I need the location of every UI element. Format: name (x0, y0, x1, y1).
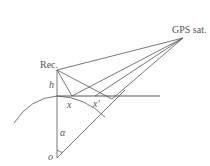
earth-surface-arc (14, 96, 105, 123)
satellite-label: GPS sat. (172, 24, 206, 35)
sat-to-xprime-line (95, 38, 183, 96)
height-label: h (49, 79, 54, 90)
alpha-label: α (60, 127, 66, 138)
sat-to-x-line (72, 38, 183, 96)
angle-arc (57, 150, 63, 152)
x-label: x (66, 99, 72, 110)
x-prime-label: x' (92, 98, 100, 109)
receiver-label: Rec. (40, 59, 58, 70)
origin-label: o (48, 151, 53, 162)
gps-reflection-diagram: Rec. GPS sat. h x x' α o (0, 0, 210, 166)
